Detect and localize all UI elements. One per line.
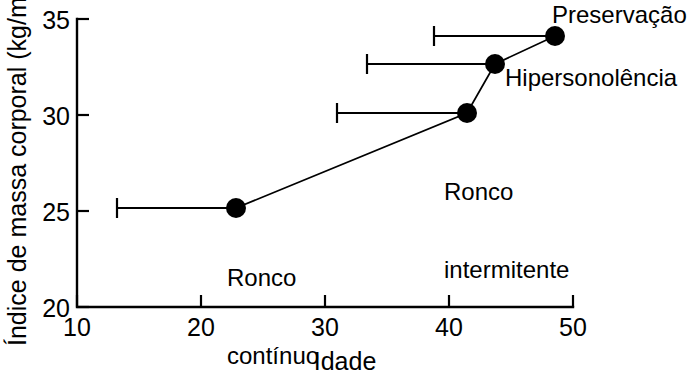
y-tick-label-25: 25 <box>42 198 70 226</box>
x-axis-title: Idade <box>314 347 377 375</box>
y-tick-label-35: 35 <box>42 6 70 34</box>
point-label-preservacao: Preservação <box>552 2 687 28</box>
point-label-hipersonolencia: Hipersonolência <box>505 65 677 91</box>
data-point-ronco-intermitente[interactable] <box>457 103 477 123</box>
y-axis-title-main: Índice de massa corporal (kg/m <box>3 0 31 346</box>
point-label-ronco-continuo-line2: contínuo <box>227 343 319 369</box>
point-label-ronco-continuo: Ronco contínuo <box>227 213 319 375</box>
data-point-preservacao[interactable] <box>545 26 565 46</box>
y-axis-title: Índice de massa corporal (kg/m2) <box>3 0 31 346</box>
error-bar-hipersonolencia <box>367 54 495 74</box>
error-bar-preservacao <box>434 26 555 46</box>
point-label-ronco-intermitente: Ronco intermitente <box>444 127 569 334</box>
y-tick-label-30: 30 <box>42 102 70 130</box>
point-label-ronco-intermitente-line1: Ronco <box>444 179 569 205</box>
x-tick-label-10: 10 <box>63 313 91 341</box>
y-axis-ticks <box>77 19 89 307</box>
error-bar-ronco-intermitente <box>337 103 467 123</box>
point-label-ronco-continuo-line1: Ronco <box>227 265 319 291</box>
x-tick-label-20: 20 <box>187 313 215 341</box>
error-bar-ronco-continuo <box>117 198 236 218</box>
point-label-ronco-intermitente-line2: intermitente <box>444 257 569 283</box>
data-point-hipersonolencia[interactable] <box>485 54 505 74</box>
